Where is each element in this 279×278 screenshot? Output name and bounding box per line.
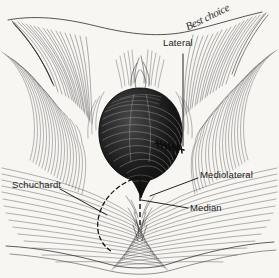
episiotomy-illustration: Lateral Mediolateral Median Schuchardt B… (0, 0, 279, 278)
leader-mediolateral (150, 178, 198, 196)
handwritten-annotation: Best choice (186, 10, 260, 44)
label-median: Median (190, 203, 222, 213)
label-schuchardt: Schuchardt (12, 180, 61, 190)
leader-schuchardt (60, 189, 107, 215)
leader-median (141, 200, 188, 208)
label-mediolateral: Mediolateral (200, 170, 253, 180)
